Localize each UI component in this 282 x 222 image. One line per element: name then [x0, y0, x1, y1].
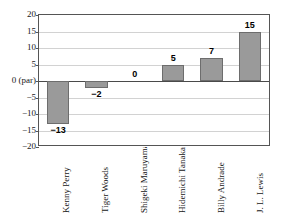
x-axis-label-slot: Billy Andrade — [193, 147, 232, 222]
x-axis-label-slot: Tiger Woods — [77, 147, 116, 222]
bar — [239, 32, 261, 82]
bar — [200, 58, 222, 81]
bar — [47, 81, 69, 124]
x-axis-category-labels: Kenny PerryTiger WoodsShigeki MaruyamaHi… — [38, 147, 270, 222]
y-tick-label: −20 — [0, 142, 36, 151]
bar-group: 0 — [116, 15, 154, 145]
bar-group: 7 — [192, 15, 230, 145]
bar — [162, 65, 184, 82]
bar-chart: 20151050 (par)−5−10−15−20 −13−205715 Ken… — [0, 0, 282, 222]
x-axis-category-label: Shigeki Maruyama — [139, 147, 148, 213]
bar-group: 15 — [231, 15, 269, 145]
bars-group: −13−205715 — [39, 15, 269, 145]
y-tick-label: 20 — [0, 10, 36, 19]
y-tick-mark — [36, 81, 39, 82]
bar-value-label: 0 — [116, 70, 154, 79]
y-axis: 20151050 (par)−5−10−15−20 — [0, 0, 36, 222]
x-axis-category-label: Billy Andrade — [216, 162, 225, 213]
bar-value-label: 5 — [154, 54, 192, 63]
y-tick-label: −5 — [0, 92, 36, 101]
y-tick-label: 10 — [0, 43, 36, 52]
plot-area: −13−205715 — [38, 14, 270, 146]
bar-value-label: −2 — [77, 90, 115, 99]
y-tick-mark — [36, 15, 39, 16]
y-tick-mark — [36, 48, 39, 49]
y-tick-mark — [36, 98, 39, 99]
bar — [85, 81, 107, 88]
x-axis-label-slot: J. L. Lewis — [231, 147, 270, 222]
x-axis-category-label: Hidemichi Tanaka — [178, 147, 187, 213]
y-tick-mark — [36, 114, 39, 115]
bar-group: −13 — [39, 15, 77, 145]
bar-value-label: −13 — [39, 126, 77, 135]
x-axis-label-slot: Kenny Perry — [38, 147, 77, 222]
bar-value-label: 7 — [192, 47, 230, 56]
y-tick-label: 15 — [0, 26, 36, 35]
bar-value-label: 15 — [231, 21, 269, 30]
x-axis-label-slot: Shigeki Maruyama — [115, 147, 154, 222]
y-tick-label: −15 — [0, 125, 36, 134]
y-tick-label: −10 — [0, 109, 36, 118]
bar-group: 5 — [154, 15, 192, 145]
x-axis-category-label: Kenny Perry — [62, 167, 71, 213]
x-axis-category-label: J. L. Lewis — [255, 173, 264, 213]
x-axis-category-label: Tiger Woods — [100, 167, 109, 213]
y-tick-mark — [36, 65, 39, 66]
x-axis-label-slot: Hidemichi Tanaka — [154, 147, 193, 222]
y-tick-label: 0 (par) — [0, 76, 36, 85]
y-tick-label: 5 — [0, 59, 36, 68]
y-tick-mark — [36, 32, 39, 33]
y-tick-mark — [36, 131, 39, 132]
bar-group: −2 — [77, 15, 115, 145]
